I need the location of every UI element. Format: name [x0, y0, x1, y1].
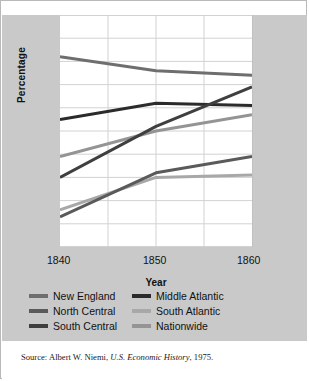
chart-legend: New England Middle Atlantic North Centra… [29, 290, 279, 332]
legend-swatch-nationwide [132, 324, 151, 328]
x-axis-title: Year [60, 277, 252, 288]
legend-label-south-central: South Central [53, 320, 117, 332]
legend-item-middle-atlantic: Middle Atlantic [132, 290, 279, 302]
legend-swatch-middle-atlantic [132, 294, 151, 298]
legend-swatch-south-atlantic [132, 309, 151, 313]
source-prefix: Source: Albert W. Niemi, [21, 352, 110, 362]
legend-label-south-atlantic: South Atlantic [156, 305, 220, 317]
x-tick-1850: 1850 [143, 255, 166, 266]
figure-container: Percentage 100 90 80 70 60 50 40 30 20 1… [0, 0, 307, 379]
source-suffix: , 1975. [190, 352, 214, 362]
x-tick-1840: 1840 [47, 255, 70, 266]
legend-swatch-new-england [29, 294, 48, 298]
legend-swatch-north-central [29, 309, 48, 313]
legend-label-new-england: New England [53, 290, 115, 302]
legend-label-north-central: North Central [53, 305, 115, 317]
legend-label-nationwide: Nationwide [156, 320, 208, 332]
legend-item-north-central: North Central [29, 305, 132, 317]
legend-item-south-central: South Central [29, 320, 132, 332]
plot-canvas [60, 15, 253, 247]
source-title: U.S. Economic History [110, 352, 189, 362]
legend-item-south-atlantic: South Atlantic [132, 305, 279, 317]
source-note: Source: Albert W. Niemi, U.S. Economic H… [21, 352, 213, 362]
legend-item-new-england: New England [29, 290, 132, 302]
legend-label-middle-atlantic: Middle Atlantic [156, 290, 224, 302]
legend-item-nationwide: Nationwide [132, 320, 279, 332]
x-tick-1860: 1860 [237, 255, 260, 266]
y-axis-title: Percentage [16, 47, 27, 103]
figure-top-margin [1, 1, 306, 15]
legend-swatch-south-central [29, 324, 48, 328]
source-note-area: Source: Albert W. Niemi, U.S. Economic H… [2, 341, 307, 379]
plot-area-wrapper: Percentage 100 90 80 70 60 50 40 30 20 1… [60, 15, 252, 247]
chart-svg [60, 15, 252, 247]
